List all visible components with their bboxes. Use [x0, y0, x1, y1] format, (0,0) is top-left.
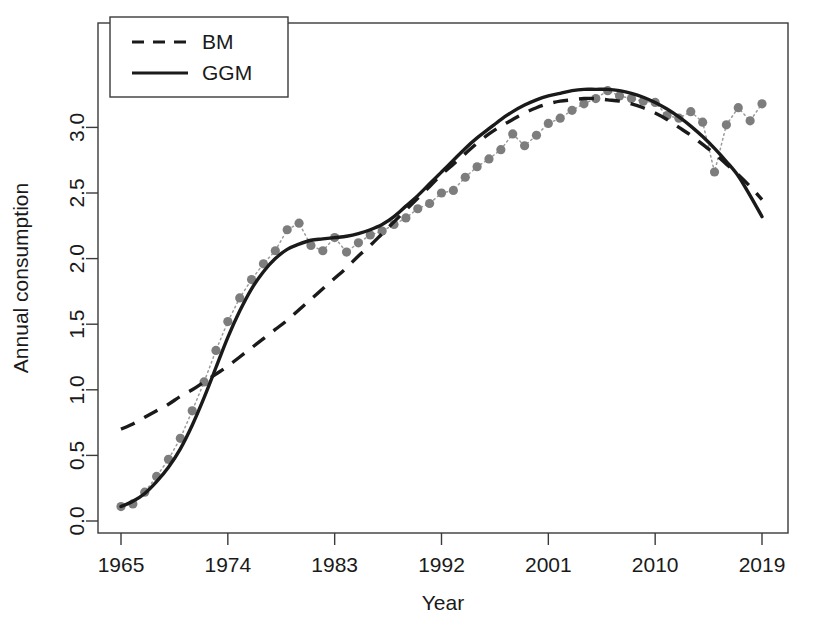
x-tick-label: 2010 — [632, 553, 679, 576]
observed-data-point — [556, 114, 565, 123]
observed-data-point — [734, 103, 743, 112]
x-tick-label: 2019 — [739, 553, 786, 576]
observed-data-point — [318, 246, 327, 255]
y-axis-ticks: 0.00.51.01.52.02.53.0 — [65, 113, 98, 536]
observed-data-point — [520, 141, 529, 150]
observed-data-point — [579, 99, 588, 108]
y-tick-label: 2.5 — [65, 178, 88, 207]
y-tick-label: 0.5 — [65, 441, 88, 470]
observed-data-point — [413, 204, 422, 213]
ggm-model-curve — [121, 89, 762, 506]
observed-data-point — [461, 173, 470, 182]
annual-consumption-line-chart: 1965197419831992200120102019 0.00.51.01.… — [0, 0, 815, 632]
observed-data-point — [686, 107, 695, 116]
legend-label-ggm: GGM — [202, 61, 252, 84]
observed-data-point — [437, 188, 446, 197]
observed-data-point — [544, 119, 553, 128]
data-series-layer — [116, 86, 766, 511]
bm-model-curve — [121, 98, 762, 429]
y-tick-label: 2.0 — [65, 244, 88, 273]
observed-data-point — [698, 118, 707, 127]
x-tick-label: 1983 — [311, 553, 358, 576]
observed-data-point — [508, 129, 517, 138]
observed-data-point — [473, 162, 482, 171]
observed-data-point — [757, 99, 766, 108]
x-tick-label: 1992 — [418, 553, 465, 576]
y-tick-label: 1.5 — [65, 310, 88, 339]
y-axis-title: Annual consumption — [9, 183, 32, 373]
observed-connector-line — [121, 91, 762, 507]
observed-data-point — [283, 225, 292, 234]
chart-legend: BMGGM — [110, 17, 288, 97]
observed-data-point — [449, 186, 458, 195]
plot-border — [98, 23, 788, 533]
observed-data-point — [294, 219, 303, 228]
x-tick-label: 1974 — [204, 553, 251, 576]
chart-container: 1965197419831992200120102019 0.00.51.01.… — [0, 0, 815, 632]
x-axis-title: Year — [422, 591, 464, 614]
observed-data-point — [746, 116, 755, 125]
observed-data-point — [223, 317, 232, 326]
observed-data-point — [567, 106, 576, 115]
observed-data-point — [211, 346, 220, 355]
observed-data-point — [342, 247, 351, 256]
observed-data-point — [710, 167, 719, 176]
observed-data-point — [401, 213, 410, 222]
y-tick-label: 3.0 — [65, 113, 88, 142]
observed-data-point — [425, 199, 434, 208]
y-tick-label: 1.0 — [65, 375, 88, 404]
observed-data-point — [532, 131, 541, 140]
x-axis-ticks: 1965197419831992200120102019 — [98, 533, 786, 576]
observed-data-point — [484, 154, 493, 163]
x-tick-label: 2001 — [525, 553, 572, 576]
x-tick-label: 1965 — [98, 553, 145, 576]
observed-data-point — [722, 120, 731, 129]
observed-data-point — [496, 145, 505, 154]
legend-label-bm: BM — [202, 30, 234, 53]
y-tick-label: 0.0 — [65, 506, 88, 535]
observed-data-point — [354, 238, 363, 247]
plot-frame — [98, 23, 788, 533]
